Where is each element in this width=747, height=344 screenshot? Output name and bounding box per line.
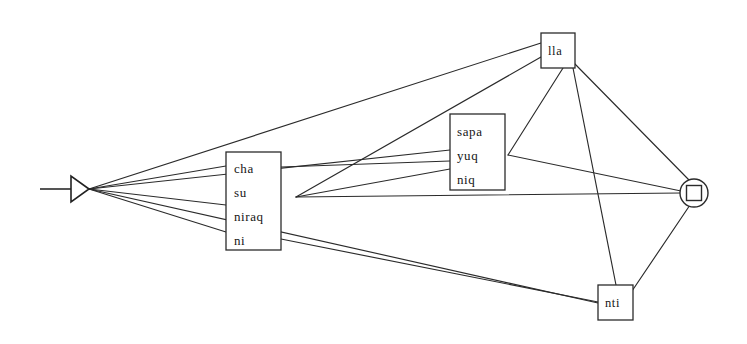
edge-start-to-cha-bottom[interactable] bbox=[89, 189, 226, 232]
node-label-nti-line-0: nti bbox=[605, 296, 620, 310]
end-state-group[interactable] bbox=[680, 179, 708, 207]
node-label-sapa-line-0: sapa bbox=[457, 124, 483, 139]
node-label-cha-line-3: ni bbox=[234, 233, 245, 248]
node-label-cha-line-2: niraq bbox=[234, 209, 264, 224]
node-cha[interactable]: chasuniraqni bbox=[226, 152, 281, 250]
edge-nti-to-end[interactable] bbox=[632, 205, 690, 291]
node-layer: chasuniraqnisapayuqniqllanti bbox=[226, 33, 633, 320]
edge-cha-to-sapa-top[interactable] bbox=[281, 161, 450, 167]
node-label-sapa-line-2: niq bbox=[457, 172, 475, 187]
edge-cha-to-sapa-mid[interactable] bbox=[296, 169, 450, 197]
edge-layer bbox=[89, 43, 690, 303]
edge-cha-to-end[interactable] bbox=[296, 193, 681, 197]
edge-start-to-nti[interactable] bbox=[89, 189, 598, 303]
node-nti[interactable]: nti bbox=[598, 285, 633, 320]
edge-cha-to-nti[interactable] bbox=[281, 239, 598, 302]
edge-sapa-to-lla[interactable] bbox=[508, 68, 563, 155]
edge-sapa-to-end[interactable] bbox=[508, 155, 681, 191]
diagram-canvas: chasuniraqnisapayuqniqllanti bbox=[0, 0, 747, 344]
edge-start-to-cha-mid[interactable] bbox=[89, 189, 226, 205]
start-marker-group[interactable] bbox=[40, 176, 89, 202]
start-triangle-icon[interactable] bbox=[71, 176, 89, 202]
transition-network-graphic: chasuniraqnisapayuqniqllanti bbox=[0, 0, 747, 344]
node-label-sapa-line-1: yuq bbox=[457, 148, 478, 163]
end-state-square-icon bbox=[687, 186, 702, 201]
node-label-lla-line-0: lla bbox=[548, 44, 562, 58]
node-sapa[interactable]: sapayuqniq bbox=[450, 114, 505, 190]
node-label-cha-line-1: su bbox=[234, 185, 247, 200]
node-lla[interactable]: lla bbox=[541, 33, 575, 68]
node-label-cha-line-0: cha bbox=[234, 161, 254, 176]
edge-start-to-cha-top[interactable] bbox=[89, 166, 226, 189]
